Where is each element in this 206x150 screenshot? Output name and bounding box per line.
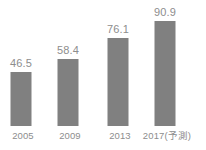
plot-area: 46.5 58.4 76.1 90.9 xyxy=(0,0,206,126)
bar-column xyxy=(108,0,129,126)
bar-group-2005: 46.5 xyxy=(0,0,44,126)
bar-group-2013: 76.1 xyxy=(95,0,141,126)
bar-rect[interactable] xyxy=(11,72,32,126)
bar-group-2017: 90.9 xyxy=(142,0,188,126)
bar-column xyxy=(58,0,79,126)
x-axis-label-2017: 2017(予測) xyxy=(138,130,196,142)
bar-column xyxy=(11,0,32,126)
bar-chart: 46.5 58.4 76.1 90.9 2005 2009 20 xyxy=(0,0,206,150)
bar-group-2009: 58.4 xyxy=(45,0,91,126)
x-axis-labels: 2005 2009 2013 2017(予測) xyxy=(0,126,206,150)
bar-rect[interactable] xyxy=(58,59,79,126)
bar-rect[interactable] xyxy=(108,38,129,126)
bar-column xyxy=(155,0,176,126)
bar-rect[interactable] xyxy=(155,21,176,126)
